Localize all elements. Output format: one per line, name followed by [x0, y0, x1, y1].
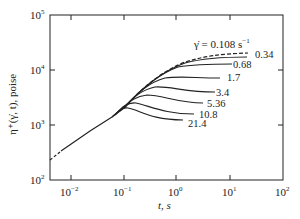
x-tick-label: 10−1 [113, 185, 131, 198]
curve-10.8 [115, 103, 194, 115]
chart-plot [0, 0, 300, 219]
curve-label: 0.34 [255, 50, 273, 61]
x-tick-label: 101 [222, 185, 237, 198]
x-tick-label: 10−2 [60, 185, 78, 198]
shear-rate-annotation: γ̇ = 0.108 s−1 [194, 38, 250, 50]
curve-label: 0.68 [233, 60, 251, 71]
x-axis-title: t, s [158, 199, 171, 211]
y-tick-label: 105 [30, 8, 45, 21]
x-tick-label: 102 [275, 185, 290, 198]
curve-label: 5.36 [207, 99, 225, 110]
curve-label: 21.4 [188, 119, 206, 130]
y-tick-label: 104 [30, 63, 45, 76]
curve-label: 1.7 [227, 73, 240, 84]
curve-label: 3.4 [216, 88, 229, 99]
x-tick-label: 100 [168, 185, 183, 198]
envelope-dashed [50, 152, 60, 160]
y-tick-label: 102 [30, 173, 45, 186]
y-tick-label: 103 [30, 118, 45, 131]
y-axis-title: η⁺(γ̇, t), poise [6, 55, 19, 155]
